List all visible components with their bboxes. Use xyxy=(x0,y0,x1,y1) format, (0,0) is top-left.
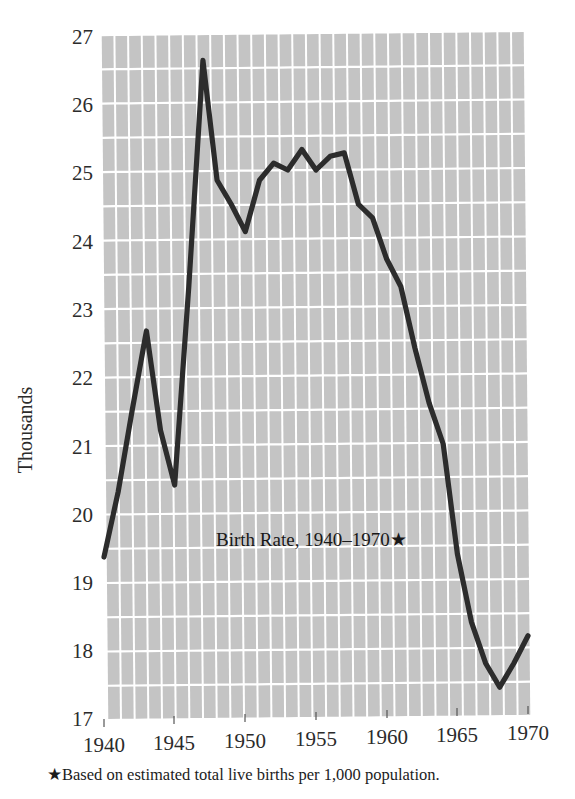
grid-cell xyxy=(282,343,294,375)
grid-cell xyxy=(365,410,377,442)
grid-cell xyxy=(285,651,297,683)
grid-cell xyxy=(254,240,266,272)
grid-cell xyxy=(337,274,349,306)
grid-cell xyxy=(307,68,319,100)
grid-cell xyxy=(338,376,350,408)
grid-cell xyxy=(473,272,485,304)
grid-cell xyxy=(336,205,348,237)
grid-cell xyxy=(199,172,211,204)
grid-cell xyxy=(171,138,183,170)
grid-cell xyxy=(117,207,129,239)
grid-cell xyxy=(392,342,404,374)
grid-cell xyxy=(418,170,430,202)
grid-cell xyxy=(158,241,170,273)
y-tick-20: 20 xyxy=(72,503,93,527)
grid-cell xyxy=(485,67,497,99)
grid-cell xyxy=(503,512,515,544)
grid-cell xyxy=(255,343,267,375)
grid-cell xyxy=(487,306,499,338)
grid-cell xyxy=(421,547,433,579)
grid-cell xyxy=(241,343,253,375)
grid-cell xyxy=(284,480,296,512)
grid-cell xyxy=(243,480,255,512)
grid-cell xyxy=(134,549,146,581)
grid-cell xyxy=(135,686,147,718)
birth-rate-figure: 27 26 25 24 23 22 21 20 19 18 17 Thousan… xyxy=(0,0,575,799)
grid-cell xyxy=(340,616,352,648)
grid-cell xyxy=(211,69,223,101)
grid-cell xyxy=(435,512,447,544)
grid-cell xyxy=(121,584,133,616)
grid-cell xyxy=(489,478,501,510)
grid-cell xyxy=(446,307,458,339)
grid-cell xyxy=(457,33,469,65)
grid-cell xyxy=(512,32,524,64)
grid-cell xyxy=(296,274,308,306)
grid-cell xyxy=(188,515,200,547)
grid-cell xyxy=(294,68,306,100)
grid-cell xyxy=(107,618,119,650)
grid-cell xyxy=(199,241,211,273)
y-tick-21: 21 xyxy=(72,435,93,459)
grid-cell xyxy=(337,342,349,374)
x-tick-1970: 1970 xyxy=(507,721,549,745)
grid-cell xyxy=(517,580,529,612)
grid-cell xyxy=(349,136,361,168)
grid-cell xyxy=(108,687,120,719)
grid-cell xyxy=(187,343,199,375)
grid-cell xyxy=(162,583,174,615)
chart-footnote: ★Based on estimated total live births pe… xyxy=(47,765,440,784)
grid-cell xyxy=(395,615,407,647)
grid-cell xyxy=(200,275,212,307)
grid-cell xyxy=(103,139,115,171)
grid-cell xyxy=(364,239,376,271)
grid-cell xyxy=(422,581,434,613)
grid-cell xyxy=(409,684,421,716)
grid-cell xyxy=(116,70,128,102)
grid-cell xyxy=(215,412,227,444)
grid-cell xyxy=(354,650,366,682)
y-tick-18: 18 xyxy=(72,639,93,663)
grid-cell xyxy=(257,583,269,615)
grid-cell xyxy=(147,447,159,479)
grid-cell xyxy=(378,342,390,374)
grid-cell xyxy=(132,310,144,342)
grid-cell xyxy=(296,377,308,409)
grid-cell xyxy=(393,479,405,511)
grid-cell xyxy=(471,32,483,64)
grid-cell xyxy=(500,238,512,270)
grid-cell xyxy=(158,207,170,239)
grid-cell xyxy=(406,376,418,408)
grid-cell xyxy=(458,101,470,133)
grid-cell xyxy=(348,68,360,100)
grid-cell xyxy=(404,170,416,202)
grid-cell xyxy=(325,479,337,511)
grid-cell xyxy=(499,66,511,98)
grid-cell xyxy=(240,240,252,272)
grid-cell xyxy=(239,137,251,169)
grid-cell xyxy=(462,478,474,510)
grid-cell xyxy=(501,306,513,338)
grid-cell xyxy=(203,617,215,649)
grid-cell xyxy=(377,170,389,202)
grid-cell xyxy=(513,101,525,133)
grid-cell xyxy=(116,139,128,171)
grid-cell xyxy=(129,36,141,68)
grid-cell xyxy=(418,238,430,270)
grid-cell xyxy=(133,481,145,513)
grid-cell xyxy=(161,481,173,513)
grid-cell xyxy=(505,683,517,715)
grid-cell xyxy=(122,687,134,719)
grid-cell xyxy=(294,103,306,135)
grid-cell xyxy=(340,685,352,717)
grid-cell xyxy=(432,204,444,236)
grid-cell xyxy=(255,377,267,409)
grid-cell xyxy=(514,238,526,270)
grid-cell xyxy=(118,310,130,342)
grid-cell xyxy=(295,205,307,237)
grid-cell xyxy=(354,616,366,648)
grid-cell xyxy=(310,342,322,374)
grid-cell xyxy=(503,477,515,509)
grid-cell xyxy=(144,173,156,205)
grid-cell xyxy=(390,170,402,202)
